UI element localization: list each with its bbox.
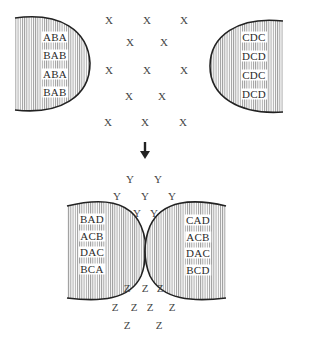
particle-x-11: X (104, 117, 112, 128)
arrow-down-icon (140, 142, 150, 159)
particle-x-2: X (143, 15, 151, 26)
particle-z-3: Z (157, 283, 164, 294)
top-right-label-1: CDC (241, 32, 267, 43)
top-right-label-4: DCD (241, 89, 267, 100)
bottom-left-label-4: BCA (79, 264, 105, 275)
particle-x-1: X (105, 15, 113, 26)
particle-x-4: X (126, 37, 134, 48)
particle-x-12: X (141, 117, 149, 128)
top-left-label-1: ABA (42, 32, 68, 43)
particle-z-4: Z (112, 302, 119, 313)
bottom-left-label-1: BAD (79, 214, 105, 225)
top-left-label-4: BAB (42, 87, 68, 98)
particle-z-2: Z (142, 283, 149, 294)
particle-x-7: X (143, 65, 151, 76)
particle-x-9: X (125, 91, 133, 102)
particle-y-1: Y (126, 174, 134, 185)
top-right-label-3: CDC (241, 70, 267, 81)
bottom-left-label-3: DAC (79, 247, 105, 258)
particle-z-6: Z (147, 302, 154, 313)
particle-z-5: Z (131, 302, 138, 313)
particle-x-6: X (105, 65, 113, 76)
bottom-right-label-1: CAD (185, 215, 211, 226)
top-left-label-2: BAB (42, 50, 68, 61)
top-left-label-3: ABA (42, 69, 68, 80)
top-right-label-2: DCD (241, 51, 267, 62)
particle-x-3: X (180, 15, 188, 26)
bottom-right-label-4: BCD (185, 265, 211, 276)
particle-x-10: X (158, 91, 166, 102)
bottom-right-label-2: ACB (185, 232, 211, 243)
particle-y-5: Y (168, 191, 176, 202)
particle-z-9: Z (156, 320, 163, 331)
particle-x-5: X (160, 37, 168, 48)
particle-y-4: Y (141, 191, 149, 202)
particle-z-7: Z (169, 302, 176, 313)
particle-y-6: Y (133, 208, 141, 219)
particle-y-2: Y (154, 174, 162, 185)
particle-z-1: Z (124, 283, 131, 294)
particle-y-3: Y (113, 191, 121, 202)
bottom-right-label-3: DAC (185, 248, 211, 259)
particle-x-8: X (180, 65, 188, 76)
particle-z-8: Z (124, 320, 131, 331)
particle-y-7: Y (150, 208, 158, 219)
bottom-left-label-2: ACB (79, 231, 105, 242)
particle-x-13: X (179, 117, 187, 128)
